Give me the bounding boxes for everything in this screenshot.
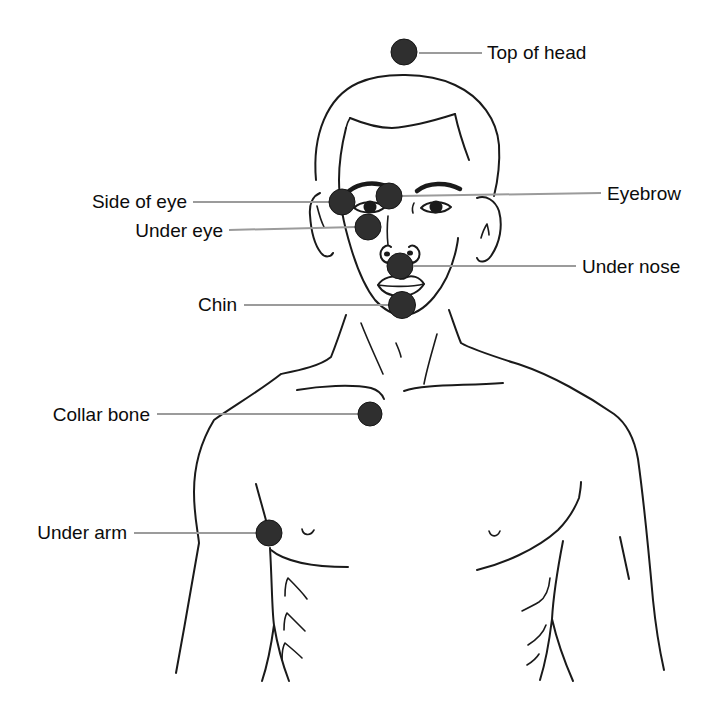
label-under-nose: Under nose bbox=[582, 256, 680, 277]
hairline-right-edge bbox=[455, 114, 469, 160]
left-pupil bbox=[364, 201, 377, 214]
hairline bbox=[350, 114, 455, 128]
mouth-line bbox=[378, 284, 424, 286]
leader-eyebrow bbox=[401, 193, 601, 196]
collarbone-right-line bbox=[404, 383, 503, 391]
marker-eyebrow bbox=[376, 183, 402, 209]
label-under-arm: Under arm bbox=[37, 522, 127, 543]
right-inner-arm bbox=[620, 537, 629, 579]
left-torso-side bbox=[262, 548, 289, 681]
right-eyebrow bbox=[417, 184, 460, 191]
marker-collar-bone bbox=[358, 402, 382, 426]
neck-muscle-left bbox=[361, 323, 383, 374]
neck-right-shoulder-arm bbox=[449, 310, 664, 670]
left-nostril bbox=[384, 252, 390, 257]
label-eyebrow: Eyebrow bbox=[607, 183, 681, 204]
label-chin: Chin bbox=[198, 294, 237, 315]
body-figure-svg: Top of head Eyebrow Side of eye Under ey… bbox=[0, 0, 717, 701]
neck-left-shoulder bbox=[176, 315, 346, 673]
right-nostril bbox=[407, 251, 413, 256]
nose-bridge bbox=[387, 216, 388, 245]
left-ear-inner bbox=[317, 206, 324, 227]
right-nipple bbox=[489, 531, 500, 536]
right-pupil bbox=[430, 201, 443, 214]
right-ear-inner bbox=[481, 224, 489, 238]
leader-under-eye bbox=[229, 227, 356, 230]
point-labels: Top of head Eyebrow Side of eye Under ey… bbox=[37, 42, 681, 543]
collarbone-left-line bbox=[297, 386, 384, 399]
marker-under-eye bbox=[355, 214, 381, 240]
marker-under-arm bbox=[256, 520, 282, 546]
hairline-left-tick bbox=[346, 118, 350, 128]
neck-notch bbox=[396, 343, 401, 357]
right-eye-inner-tick bbox=[412, 203, 414, 213]
eft-tapping-points-diagram: Top of head Eyebrow Side of eye Under ey… bbox=[0, 0, 717, 701]
right-rib-marks bbox=[522, 578, 550, 665]
marker-chin bbox=[389, 292, 416, 319]
label-top-of-head: Top of head bbox=[487, 42, 586, 63]
label-side-of-eye: Side of eye bbox=[92, 191, 187, 212]
skull-outline bbox=[315, 75, 499, 196]
marker-side-of-eye bbox=[329, 189, 355, 215]
body-outline bbox=[176, 75, 664, 681]
marker-under-nose bbox=[387, 253, 413, 279]
right-pec-curve bbox=[477, 482, 581, 570]
left-nipple bbox=[302, 529, 314, 534]
left-rib-marks bbox=[282, 578, 307, 660]
marker-top-of-head bbox=[391, 39, 417, 65]
neck-muscle-right bbox=[424, 334, 437, 384]
right-torso-side bbox=[540, 541, 573, 681]
label-under-eye: Under eye bbox=[135, 220, 223, 241]
tapping-point-markers bbox=[256, 39, 417, 546]
label-collar-bone: Collar bone bbox=[53, 404, 150, 425]
left-pec-curve bbox=[271, 550, 348, 567]
